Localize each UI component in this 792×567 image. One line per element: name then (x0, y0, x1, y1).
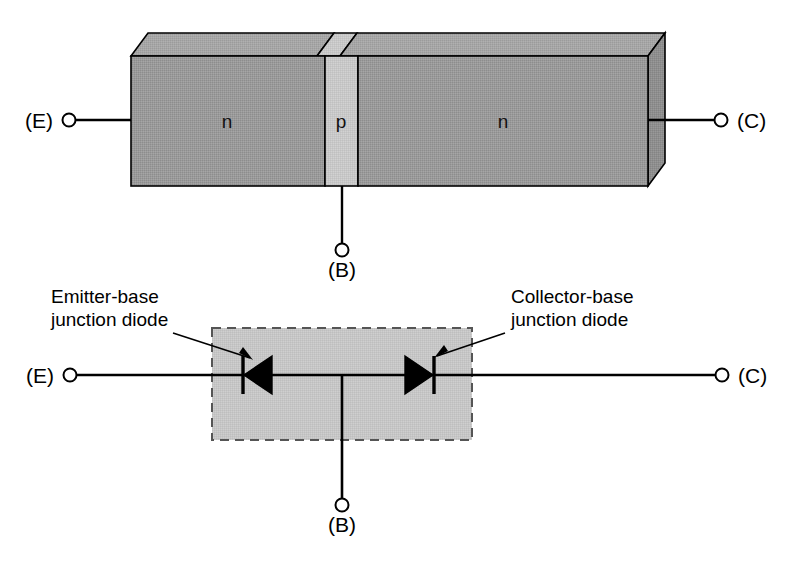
equivalent-collector-terminal-label: (C) (738, 364, 767, 387)
annotation-emitter-base-line2: junction diode (50, 309, 168, 330)
block-top-face-collector (340, 33, 665, 56)
structure-base-terminal-node[interactable] (336, 244, 349, 257)
structure-base-terminal-label: (B) (328, 258, 356, 281)
block-top-face-emitter (131, 33, 334, 56)
equivalent-collector-terminal-node[interactable] (716, 369, 729, 382)
annotation-collector-base-line2: junction diode (510, 309, 628, 330)
annotation-collector-base-line1: Collector-base (511, 286, 634, 307)
structure-collector-terminal-label: (C) (737, 109, 766, 132)
npn-block-structure: n p n (E) (C) (B) (25, 33, 766, 281)
block-right-face (648, 33, 665, 186)
equivalent-base-terminal-label: (B) (328, 513, 356, 536)
annotation-collector-base-diode: Collector-base junction diode (434, 286, 634, 358)
equivalent-emitter-terminal-node[interactable] (64, 369, 77, 382)
two-diode-equivalent: (E) (C) (B) Emitter-base junction diode … (26, 286, 767, 536)
annotation-emitter-base-diode: Emitter-base junction diode (50, 286, 253, 360)
structure-emitter-terminal-node[interactable] (63, 114, 76, 127)
region-label-collector-n: n (498, 111, 509, 132)
structure-collector-terminal-node[interactable] (715, 114, 728, 127)
equivalent-emitter-terminal-label: (E) (26, 364, 54, 387)
transistor-figure: n p n (E) (C) (B) (0, 0, 792, 567)
region-label-emitter-n: n (222, 111, 233, 132)
region-label-base-p: p (336, 111, 347, 132)
equivalent-base-terminal-node[interactable] (336, 499, 349, 512)
annotation-emitter-base-line1: Emitter-base (51, 286, 159, 307)
figure-canvas: n p n (E) (C) (B) (0, 0, 792, 567)
structure-emitter-terminal-label: (E) (25, 109, 53, 132)
